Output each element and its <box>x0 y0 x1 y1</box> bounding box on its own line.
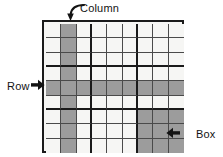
grid-cell <box>92 110 107 124</box>
row-label: Row <box>7 80 30 92</box>
grid-cell <box>77 24 92 38</box>
grid-cell <box>169 81 184 95</box>
grid-cell <box>92 67 107 81</box>
grid-cell <box>169 53 184 67</box>
grid-cell <box>153 96 168 110</box>
grid-cell <box>107 139 122 153</box>
grid-cell <box>77 81 92 95</box>
grid-cell <box>153 67 168 81</box>
grid-cell <box>123 110 138 124</box>
grid-cell <box>107 110 122 124</box>
grid-cell <box>153 139 168 153</box>
grid-cell <box>138 24 153 38</box>
grid-cell <box>61 139 76 153</box>
grid-cell <box>107 24 122 38</box>
grid-cell <box>123 24 138 38</box>
grid-cell <box>153 53 168 67</box>
diagram-canvas: Column Row Box <box>0 0 223 157</box>
grid-cell <box>92 53 107 67</box>
grid-cell <box>169 67 184 81</box>
grid-cells <box>46 24 184 153</box>
grid-cell <box>138 38 153 52</box>
grid-cell <box>61 96 76 110</box>
grid-cell <box>46 96 61 110</box>
grid-cell <box>107 124 122 138</box>
box-label: Box <box>196 128 216 140</box>
grid-cell <box>61 124 76 138</box>
grid-cell <box>77 38 92 52</box>
grid-cell <box>107 53 122 67</box>
grid-cell <box>61 53 76 67</box>
sudoku-grid <box>42 20 184 153</box>
grid-cell <box>153 110 168 124</box>
grid-cell <box>169 24 184 38</box>
grid-cell <box>169 96 184 110</box>
grid-cell <box>123 96 138 110</box>
grid-cell <box>61 24 76 38</box>
grid-cell <box>46 124 61 138</box>
grid-cell <box>92 81 107 95</box>
grid-cell <box>46 67 61 81</box>
grid-cell <box>77 139 92 153</box>
grid-cell <box>77 53 92 67</box>
grid-cell <box>92 139 107 153</box>
grid-cell <box>123 38 138 52</box>
grid-cell <box>107 96 122 110</box>
grid-cell <box>169 139 184 153</box>
grid-cell <box>138 110 153 124</box>
grid-cell <box>138 96 153 110</box>
arrow-right-icon <box>31 79 45 91</box>
grid-cell <box>138 124 153 138</box>
grid-cell <box>92 96 107 110</box>
grid-cell <box>77 110 92 124</box>
grid-cell <box>61 81 76 95</box>
grid-cell <box>46 139 61 153</box>
grid-cell <box>92 24 107 38</box>
grid-cell <box>138 53 153 67</box>
grid-cell <box>77 124 92 138</box>
arrow-left-icon <box>166 127 180 139</box>
grid-cell <box>61 67 76 81</box>
grid-cell <box>46 110 61 124</box>
grid-cell <box>153 24 168 38</box>
grid-cell <box>77 96 92 110</box>
grid-cell <box>123 81 138 95</box>
grid-cell <box>138 81 153 95</box>
grid-cell <box>123 124 138 138</box>
grid-cell <box>153 81 168 95</box>
grid-cell <box>46 81 61 95</box>
grid-cell <box>61 38 76 52</box>
column-label: Column <box>80 2 119 14</box>
grid-cell <box>138 139 153 153</box>
grid-cell <box>77 67 92 81</box>
grid-cell <box>123 67 138 81</box>
grid-cell <box>123 53 138 67</box>
grid-cell <box>123 139 138 153</box>
grid-cell <box>153 38 168 52</box>
grid-cell <box>46 53 61 67</box>
grid-cell <box>92 124 107 138</box>
grid-cell <box>46 24 61 38</box>
grid-cell <box>46 38 61 52</box>
grid-cell <box>169 110 184 124</box>
grid-cell <box>169 38 184 52</box>
grid-cell <box>61 110 76 124</box>
grid-cell <box>107 81 122 95</box>
grid-cell <box>107 67 122 81</box>
grid-cell <box>107 38 122 52</box>
grid-border <box>42 20 184 153</box>
grid-cell <box>92 38 107 52</box>
grid-cell <box>138 67 153 81</box>
